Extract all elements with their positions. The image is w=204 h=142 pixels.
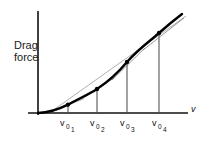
x-tick-base-v01: v xyxy=(60,118,65,128)
x-tick-base-v04: v xyxy=(152,118,157,128)
x-tick-sub-v03: 0 xyxy=(126,123,130,130)
x-tick-sub2-v04: 4 xyxy=(163,126,167,133)
point-marker-v01 xyxy=(66,102,70,106)
drag-force-vs-velocity-chart: Drag force v v 0 1 v 0 2 v 0 3 v 0 4 xyxy=(0,0,204,142)
point-marker-v04 xyxy=(157,31,161,35)
y-axis-label-line1: Drag xyxy=(14,39,38,51)
x-tick-base-v03: v xyxy=(120,118,125,128)
x-tick-sub2-v01: 1 xyxy=(71,126,75,133)
point-marker-v03 xyxy=(125,60,129,64)
x-tick-sub-v01: 0 xyxy=(66,123,70,130)
x-tick-sub-v04: 0 xyxy=(158,123,162,130)
x-tick-sub2-v03: 3 xyxy=(131,126,135,133)
x-tick-sub-v02: 0 xyxy=(96,123,100,130)
x-axis-label: v xyxy=(191,104,196,114)
point-marker-v02 xyxy=(95,87,99,91)
y-axis-label-line2: force xyxy=(14,51,38,63)
x-tick-sub2-v02: 2 xyxy=(101,126,105,133)
x-tick-base-v02: v xyxy=(90,118,95,128)
